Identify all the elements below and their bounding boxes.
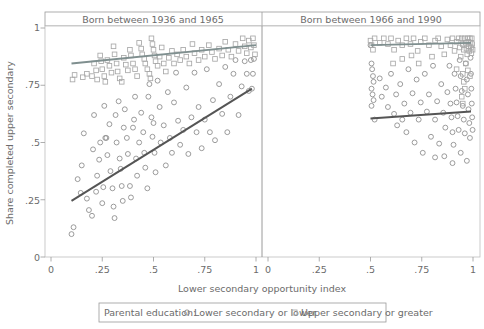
x-tick-label: 0 (48, 264, 54, 275)
x-tick-label: .75 (197, 264, 212, 275)
legend-label-low: Lower secondary or lower (194, 307, 317, 318)
legend: Parental education: Lower secondary or l… (99, 303, 433, 322)
y-tick-label: 0 (34, 252, 40, 263)
x-tick-label: 0 (265, 264, 271, 275)
x-tick-label: .75 (414, 264, 429, 275)
x-tick-label: .25 (312, 264, 327, 275)
y-tick-label: .25 (25, 195, 40, 206)
legend-label-high: Upper secondary or greater (301, 307, 433, 318)
panel-title-strip: Born between 1936 and 1965 Born between … (45, 12, 480, 26)
x-tick-label: .25 (95, 264, 110, 275)
x-tick-label: .5 (149, 264, 158, 275)
panel-title-left: Born between 1936 and 1965 (82, 14, 223, 25)
chart-root: Share completed upper secondary 1 .75 .5… (0, 0, 484, 329)
y-tick-label: .5 (31, 137, 40, 148)
plot-frame (45, 26, 480, 257)
y-tick-label: 1 (34, 22, 40, 33)
x-tick-label: 1 (253, 264, 259, 275)
y-tick-label: .75 (25, 79, 40, 90)
x-tick-label: .5 (366, 264, 375, 275)
scatter-plot-figure: Share completed upper secondary 1 .75 .5… (0, 0, 484, 329)
x-axis-title: Lower secondary opportunity index (178, 283, 346, 294)
y-axis-tick-labels: 1 .75 .5 .25 0 (25, 22, 40, 263)
legend-title: Parental education: (104, 307, 196, 318)
x-tick-label: 1 (470, 264, 476, 275)
panel-title-right: Born between 1966 and 1990 (300, 14, 441, 25)
y-axis-title: Share completed upper secondary (4, 61, 15, 225)
